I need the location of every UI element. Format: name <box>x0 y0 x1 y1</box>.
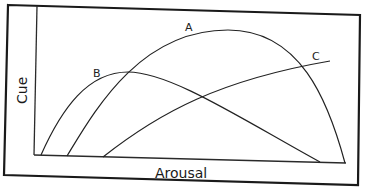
curve-b <box>41 72 320 162</box>
curve-label-c: C <box>312 50 320 63</box>
y-axis <box>34 6 37 155</box>
x-axis-label: Arousal <box>155 165 207 181</box>
curve-c <box>103 61 330 157</box>
y-axis-label: Cue <box>14 77 30 104</box>
curve-label-b: B <box>93 67 101 80</box>
curve-a <box>67 30 345 163</box>
arousal-cue-diagram: A B C Arousal Cue <box>0 0 366 187</box>
x-axis <box>34 155 346 163</box>
curve-label-a: A <box>185 21 193 34</box>
outer-frame <box>4 5 360 185</box>
